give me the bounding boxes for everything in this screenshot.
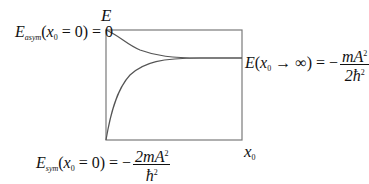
sym-den-sup: 2	[154, 168, 158, 177]
sym-rest: = 0) = −	[75, 154, 131, 171]
asym-x: x	[47, 23, 54, 40]
limit-den: 2ħ	[345, 67, 361, 84]
x-axis-label: x0	[244, 142, 256, 162]
limit-den-sup: 2	[361, 68, 365, 77]
sym-den: ħ	[146, 167, 154, 184]
asym-rest: = 0) = 0	[58, 23, 113, 40]
sym-energy-curve	[106, 58, 242, 140]
sym-sub: sym	[46, 164, 58, 173]
limit-arrow: → ∞) = −	[271, 54, 338, 71]
limit-num: mA	[342, 48, 363, 65]
asym-energy-curve	[106, 30, 242, 58]
sym-num: 2mA	[135, 148, 164, 165]
plot-frame	[106, 30, 242, 140]
limit-num-sup: 2	[363, 49, 367, 58]
limit-label: E(x0 → ∞) = −mA22ħ2	[245, 46, 369, 83]
asym-label: Easym(x0 = 0) = 0	[15, 23, 113, 42]
limit-E: E	[245, 54, 255, 71]
sym-fraction: 2mA2ħ2	[133, 146, 170, 183]
asym-sub: asym	[25, 33, 41, 42]
sym-x: x	[64, 154, 71, 171]
asym-E: E	[15, 23, 25, 40]
x-axis-sub: 0	[252, 153, 256, 162]
x-axis-x: x	[244, 142, 252, 161]
limit-fraction: mA22ħ2	[340, 46, 369, 83]
sym-E: E	[36, 154, 46, 171]
sym-num-sup: 2	[164, 149, 168, 158]
sym-label: Esym(x0 = 0) = −2mA2ħ2	[36, 146, 170, 183]
